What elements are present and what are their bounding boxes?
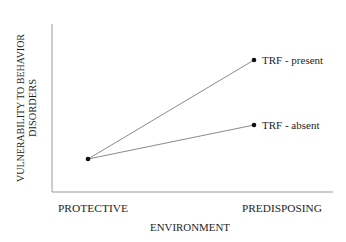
x-tick-label-protective: PROTECTIVE: [58, 203, 128, 214]
x-axis-title: ENVIRONMENT: [150, 222, 231, 233]
y-axis-title-line-1: VULNERABILITY TO BEHAVIOR: [15, 34, 26, 182]
series-label-trf-present: TRF - present: [262, 54, 323, 66]
series-line-trf-absent: [88, 125, 254, 159]
series-line-trf-present: [88, 60, 254, 159]
y-axis-title-line-2: DISORDERS: [27, 79, 38, 137]
x-tick-label-predisposing: PREDISPOSING: [242, 203, 322, 214]
data-point-trf-absent: [252, 123, 257, 128]
data-point-origin: [86, 157, 91, 162]
data-point-trf-present: [252, 58, 257, 63]
series-label-trf-absent: TRF - absent: [262, 119, 319, 131]
chart: TRF - present TRF - absent PROTECTIVE PR…: [0, 0, 346, 242]
